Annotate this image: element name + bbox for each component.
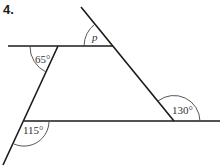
- angle-label-65: 65°: [35, 53, 50, 65]
- angle-label-p: p: [92, 31, 98, 43]
- geometry-diagram: 4. 65° p 130° 115°: [0, 0, 220, 166]
- question-number: 4.: [3, 2, 14, 17]
- diagram-lines: [0, 0, 220, 166]
- angle-label-115: 115°: [23, 124, 44, 136]
- angle-label-130: 130°: [172, 104, 193, 116]
